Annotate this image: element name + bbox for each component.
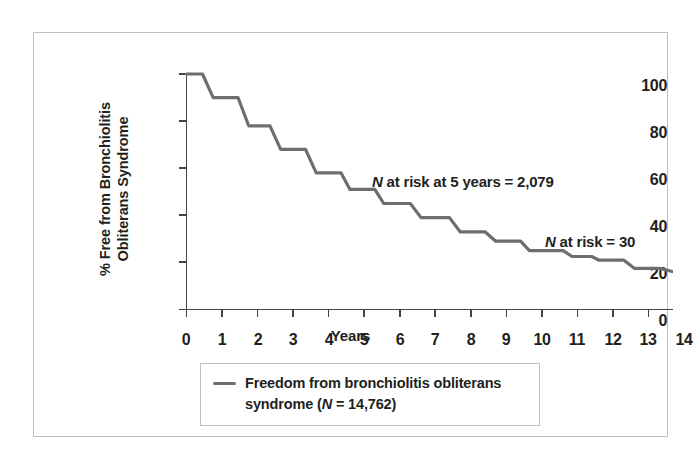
legend-italic-n: N [322, 396, 332, 412]
y-axis-title-line-2: Obliterans Syndrome [114, 59, 132, 319]
legend-line2-pre: syndrome ( [245, 396, 322, 412]
legend-line2-post: = 14,762) [332, 396, 396, 412]
annotation-5yr-italic-n: N [372, 173, 383, 190]
x-axis-title: Years [33, 327, 668, 344]
survival-curve-svg [153, 54, 673, 334]
annotation-n-at-risk-5-years: N at risk at 5 years = 2,079 [372, 173, 554, 190]
y-axis-title-line-1: % Free from Bronchiolitis [96, 59, 114, 319]
y-axis-title: % Free from Bronchiolitis Obliterans Syn… [96, 59, 132, 319]
plot-area [153, 54, 673, 334]
legend-item: Freedom from bronchiolitis obliteranssyn… [213, 373, 529, 415]
y-tick-marks [179, 74, 187, 310]
legend-box: Freedom from bronchiolitis obliteranssyn… [200, 363, 540, 426]
legend-label-line-1: Freedom from bronchiolitis obliterans [245, 373, 501, 394]
annotation-final-italic-n: N [545, 233, 556, 250]
legend-label: Freedom from bronchiolitis obliteranssyn… [245, 373, 501, 415]
annotation-n-at-risk-final: N at risk = 30 [545, 233, 635, 250]
annotation-5yr-text: at risk at 5 years = 2,079 [383, 173, 554, 190]
figure-root: % Free from Bronchiolitis Obliterans Syn… [0, 0, 699, 469]
legend-label-line-2: syndrome (N = 14,762) [245, 394, 501, 415]
x-tick-marks [187, 310, 674, 318]
axis-spines [187, 74, 674, 310]
legend-line-swatch-icon [213, 382, 236, 385]
x-tick-label-14: 14 [669, 331, 699, 349]
annotation-final-text: at risk = 30 [556, 233, 636, 250]
